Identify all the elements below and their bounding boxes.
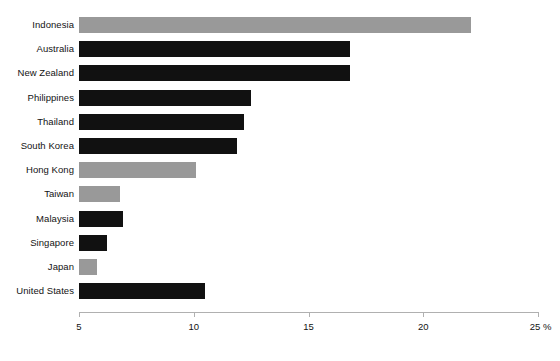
category-label: Australia	[37, 37, 74, 61]
x-tick	[194, 312, 195, 317]
x-tick	[423, 312, 424, 317]
bar-malaysia	[79, 211, 123, 227]
category-label: Indonesia	[32, 13, 74, 37]
category-label: Singapore	[30, 231, 74, 255]
bar-row: Taiwan	[0, 182, 560, 206]
bar-south-korea	[79, 138, 237, 154]
bar-thailand	[79, 114, 244, 130]
x-tick-label: 10	[188, 321, 199, 332]
bar-australia	[79, 41, 350, 57]
category-label: Japan	[48, 255, 74, 279]
x-tick-label: 5	[76, 321, 81, 332]
bar-new-zealand	[79, 65, 350, 81]
category-label: Taiwan	[44, 182, 74, 206]
bar-taiwan	[79, 186, 120, 202]
category-label: Hong Kong	[26, 158, 74, 182]
bar-row: Australia	[0, 37, 560, 61]
bar-row: United States	[0, 279, 560, 303]
bar-united-states	[79, 283, 205, 299]
plot-area: IndonesiaAustraliaNew ZealandPhilippines…	[0, 0, 560, 361]
bar-philippines	[79, 90, 251, 106]
bar-row: Hong Kong	[0, 158, 560, 182]
x-tick-label: 20	[418, 321, 429, 332]
bar-row: Japan	[0, 255, 560, 279]
bar-row: Singapore	[0, 231, 560, 255]
bar-indonesia	[79, 17, 471, 33]
bar-row: Thailand	[0, 110, 560, 134]
category-label: Philippines	[28, 86, 75, 110]
x-tick-label: 15	[303, 321, 314, 332]
bar-row: Philippines	[0, 86, 560, 110]
bar-row: New Zealand	[0, 61, 560, 85]
bar-hong-kong	[79, 162, 196, 178]
x-tick-label: 25 %	[530, 321, 552, 332]
category-label: South Korea	[21, 134, 74, 158]
bar-row: Indonesia	[0, 13, 560, 37]
bar-chart: IndonesiaAustraliaNew ZealandPhilippines…	[0, 0, 560, 361]
x-tick	[79, 312, 80, 317]
category-label: Thailand	[37, 110, 74, 134]
bar-japan	[79, 259, 97, 275]
bar-row: South Korea	[0, 134, 560, 158]
category-label: United States	[16, 279, 74, 303]
category-label: Malaysia	[36, 207, 74, 231]
x-tick	[538, 312, 539, 317]
x-tick	[309, 312, 310, 317]
bar-singapore	[79, 235, 107, 251]
category-label: New Zealand	[17, 61, 74, 85]
bar-row: Malaysia	[0, 207, 560, 231]
